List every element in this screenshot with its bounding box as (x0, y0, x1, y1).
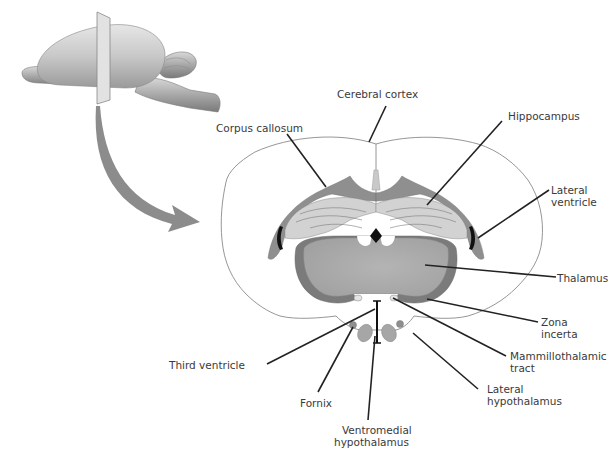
label-lateral-hypothalamus-line1: Lateral (487, 383, 524, 395)
label-mammillothalamic-line2: tract (510, 362, 535, 374)
thalamus (304, 238, 449, 296)
label-mammillothalamic-line1: Mammillothalamic (510, 350, 607, 362)
label-thalamus: Thalamus (556, 272, 608, 284)
label-zona-incerta-line2: incerta (541, 328, 578, 340)
brain-section-diagram: Cerebral cortex Corpus callosum Hippocam… (0, 0, 608, 453)
label-third-ventricle: Third ventricle (168, 359, 245, 371)
label-lateral-ventricle-line2: ventricle (551, 196, 597, 208)
vmh-right (379, 322, 399, 344)
fornix-right (397, 321, 404, 328)
hippocampus-right (376, 197, 467, 238)
hippocampus-left (285, 197, 376, 238)
label-cerebral-cortex: Cerebral cortex (337, 88, 418, 100)
vmh-left (355, 322, 375, 344)
curved-arrow-icon (96, 106, 200, 232)
whole-brain-inset (22, 12, 220, 112)
label-zona-incerta-line1: Zona (541, 316, 568, 328)
label-fornix: Fornix (300, 397, 332, 409)
label-hippocampus: Hippocampus (508, 110, 580, 122)
label-ventromedial-line1: Ventromedial (342, 424, 412, 436)
label-ventromedial-line2: hypothalamus (334, 436, 409, 448)
label-corpus-callosum: Corpus callosum (216, 122, 303, 134)
cutting-plane (97, 12, 110, 104)
label-lateral-ventricle-line1: Lateral (551, 184, 588, 196)
label-lateral-hypothalamus-line2: hypothalamus (487, 395, 562, 407)
